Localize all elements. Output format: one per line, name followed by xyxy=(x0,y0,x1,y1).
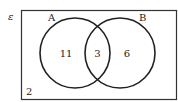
region-intersection-value: 3 xyxy=(94,48,100,59)
region-b-only-value: 6 xyxy=(124,48,130,59)
set-a-label: A xyxy=(47,12,56,23)
region-outside-value: 2 xyxy=(26,86,32,97)
venn-diagram: ε A B 11 3 6 2 xyxy=(0,0,178,102)
set-b-label: B xyxy=(139,12,146,23)
region-a-only-value: 11 xyxy=(60,48,73,59)
universal-set-symbol: ε xyxy=(8,11,13,22)
